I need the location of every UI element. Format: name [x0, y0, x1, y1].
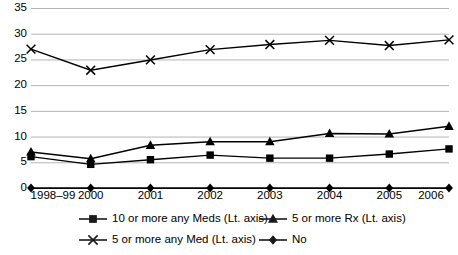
y-axis: 05101520253035	[0, 8, 27, 188]
y-tick-label: 30	[14, 28, 27, 40]
legend-square-icon	[78, 212, 108, 226]
x-tick-label: 2002	[197, 190, 223, 202]
y-tick-label: 20	[14, 79, 27, 91]
legend-item[interactable]: No	[258, 232, 307, 247]
triangle-marker	[26, 147, 36, 156]
legend-label: No	[292, 234, 307, 246]
legend-label: 5 or more any Med (Lt. axis)	[112, 234, 256, 246]
line-chart: 05101520253035 1998–99200020012002200320…	[0, 0, 458, 255]
y-tick-label: 15	[14, 105, 27, 117]
x-tick-label: 2004	[317, 190, 343, 202]
square-marker	[266, 154, 273, 161]
square-marker	[147, 156, 154, 163]
x-tick-label: 2000	[78, 190, 104, 202]
x-tick-label: 2003	[257, 190, 283, 202]
x-tick-label: 2005	[376, 190, 402, 202]
triangle-marker	[444, 121, 454, 130]
series-layer	[31, 8, 449, 188]
x-marker	[27, 45, 36, 54]
legend-label: 10 or more any Meds (Lt. axis)	[112, 213, 268, 225]
legend-item[interactable]: 5 or more Rx (Lt. axis)	[258, 211, 406, 226]
chart-legend: 10 or more any Meds (Lt. axis)5 or more …	[0, 211, 458, 253]
square-marker	[89, 215, 97, 223]
y-tick-label: 10	[14, 131, 27, 143]
square-marker	[386, 150, 393, 157]
legend-item[interactable]: 5 or more any Med (Lt. axis)	[78, 232, 256, 247]
triangle-marker	[325, 128, 335, 137]
legend-x-icon	[78, 233, 108, 247]
legend-diamond-icon	[258, 233, 288, 247]
plot-area	[31, 8, 449, 188]
legend-label: 5 or more Rx (Lt. axis)	[292, 213, 406, 225]
y-tick-label: 5	[21, 157, 27, 169]
diamond-marker	[269, 235, 277, 245]
series-line	[31, 40, 449, 70]
x-tick-label: 1998–99	[31, 190, 76, 202]
x-axis: 1998–992000200120022003200420052006	[31, 190, 449, 206]
y-tick-label: 25	[14, 54, 27, 66]
y-tick-label: 0	[21, 182, 27, 194]
legend-triangle-icon	[258, 212, 288, 226]
data-series	[27, 35, 454, 74]
legend-item[interactable]: 10 or more any Meds (Lt. axis)	[78, 211, 268, 226]
y-tick-label: 35	[14, 2, 27, 14]
x-tick-label: 2006	[418, 190, 444, 202]
x-tick-label: 2001	[138, 190, 164, 202]
square-marker	[445, 145, 452, 152]
square-marker	[326, 154, 333, 161]
square-marker	[206, 151, 213, 158]
